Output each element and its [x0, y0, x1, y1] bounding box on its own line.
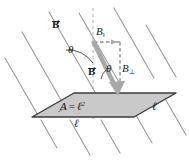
field-line — [79, 13, 120, 84]
equals-sign: = — [67, 100, 77, 112]
area-label: A=ℓ2 — [60, 101, 85, 112]
field-line — [41, 120, 57, 148]
field-line — [22, 32, 62, 102]
field-vector-label-lower: B — [88, 66, 95, 77]
magnetic-flux-diagram: B B B‖ B⊥ θ θ A=ℓ2 ℓ ℓ — [0, 0, 189, 164]
field-line — [146, 25, 176, 77]
b-parallel-symbol: B — [96, 25, 103, 37]
vector-arrow-overbar-icon — [88, 66, 97, 71]
field-line — [101, 120, 120, 153]
b-perpendicular-symbol: B — [122, 62, 129, 74]
b-parallel-subscript: ‖ — [103, 31, 105, 39]
vector-arrow-overbar-icon — [52, 19, 61, 24]
diagram-canvas — [0, 0, 189, 164]
ell-label-right: ℓ — [152, 101, 157, 112]
field-line — [70, 120, 90, 155]
theta-label-upper: θ — [68, 44, 73, 55]
b-parallel-label: B‖ — [96, 26, 105, 39]
field-line — [163, 95, 186, 135]
theta-label-lower: θ — [106, 63, 111, 74]
field-vector-label-upper: B — [52, 19, 59, 30]
field-line — [5, 58, 39, 117]
b-perpendicular-subscript: ⊥ — [129, 68, 135, 76]
ell-exponent: 2 — [82, 100, 86, 108]
b-perpendicular-label: B⊥ — [122, 63, 135, 76]
area-symbol: A — [60, 100, 67, 112]
ell-label-bottom: ℓ — [74, 118, 79, 129]
